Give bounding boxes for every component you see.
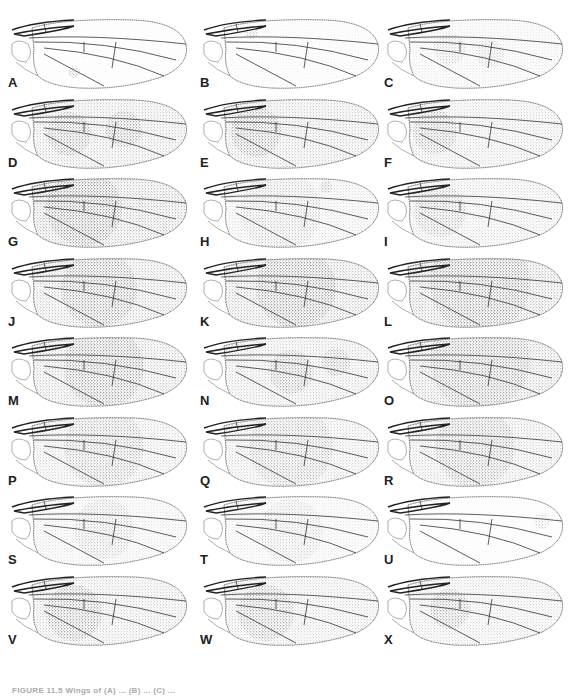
wing-illustration	[196, 491, 386, 571]
wing-illustration	[196, 173, 386, 253]
panel-label: J	[8, 314, 15, 329]
wing-illustration	[4, 491, 194, 571]
wing-panel-f: F	[380, 94, 570, 174]
panel-label: H	[200, 234, 209, 249]
wing-panel-b: B	[196, 14, 386, 94]
wing-illustration	[196, 253, 386, 333]
wing-panel-l: L	[380, 253, 570, 333]
wing-illustration	[4, 94, 194, 174]
wing-illustration	[380, 332, 570, 412]
panel-label: P	[8, 473, 17, 488]
panel-label: T	[200, 552, 208, 567]
panel-label: B	[200, 75, 209, 90]
wing-illustration	[380, 571, 570, 651]
wing-illustration	[196, 14, 386, 94]
wing-panel-x: X	[380, 571, 570, 651]
panel-label: W	[200, 632, 212, 647]
wing-panel-m: M	[4, 332, 194, 412]
wing-panel-d: D	[4, 94, 194, 174]
wing-panel-u: U	[380, 491, 570, 571]
panel-label: K	[200, 314, 209, 329]
wing-panel-k: K	[196, 253, 386, 333]
panel-label: F	[384, 155, 392, 170]
wing-illustration	[196, 412, 386, 492]
panel-label: G	[8, 234, 18, 249]
panel-label: E	[200, 155, 209, 170]
panel-label: R	[384, 473, 393, 488]
wing-panel-t: T	[196, 491, 386, 571]
panel-label: O	[384, 393, 394, 408]
wing-panel-r: R	[380, 412, 570, 492]
figure-caption: FIGURE 11.5 Wings of (A) ... (B) ... (C)…	[12, 686, 572, 695]
panel-label: M	[8, 393, 19, 408]
wing-panel-a: A	[4, 14, 194, 94]
wing-panel-g: G	[4, 173, 194, 253]
wing-illustration	[4, 14, 194, 94]
panel-label: X	[384, 632, 393, 647]
wing-panel-q: Q	[196, 412, 386, 492]
wing-panel-c: C	[380, 14, 570, 94]
wing-illustration	[196, 332, 386, 412]
wing-illustration	[196, 571, 386, 651]
panel-label: V	[8, 632, 17, 647]
panel-label: I	[384, 234, 388, 249]
panel-label: N	[200, 393, 209, 408]
panel-label: D	[8, 155, 17, 170]
wing-illustration	[380, 173, 570, 253]
wing-panel-j: J	[4, 253, 194, 333]
wing-illustration	[4, 253, 194, 333]
wing-panel-o: O	[380, 332, 570, 412]
wing-illustration	[4, 173, 194, 253]
wing-illustration	[380, 94, 570, 174]
panel-label: Q	[200, 473, 210, 488]
panel-label: L	[384, 314, 392, 329]
wing-panel-i: I	[380, 173, 570, 253]
wing-illustration	[196, 94, 386, 174]
panel-label: A	[8, 75, 17, 90]
panel-label: C	[384, 75, 393, 90]
wing-panel-h: H	[196, 173, 386, 253]
panel-label: S	[8, 552, 17, 567]
wing-panel-p: P	[4, 412, 194, 492]
wing-illustration	[380, 14, 570, 94]
wing-illustration	[4, 412, 194, 492]
wing-panel-w: W	[196, 571, 386, 651]
wing-illustration	[380, 491, 570, 571]
panel-label: U	[384, 552, 393, 567]
wing-illustration	[380, 412, 570, 492]
wing-illustration	[4, 332, 194, 412]
wing-panel-v: V	[4, 571, 194, 651]
wing-panel-s: S	[4, 491, 194, 571]
wing-illustration	[4, 571, 194, 651]
wing-panel-n: N	[196, 332, 386, 412]
wing-illustration	[380, 253, 570, 333]
wing-panel-e: E	[196, 94, 386, 174]
